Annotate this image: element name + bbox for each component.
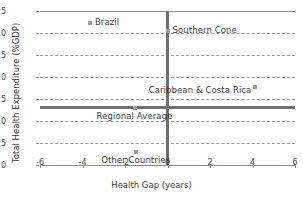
y-tick-label: 4.5 (0, 139, 6, 148)
y-tick-label: 7.5 (0, 7, 6, 16)
plot-area: BrazilSouthern ConeCaribbean & Costa Ric… (40, 11, 295, 165)
y-tick-label: 5.5 (0, 95, 6, 104)
x-axis-label: Health Gap (years) (0, 180, 303, 190)
data-point-marker[interactable] (134, 150, 138, 154)
y-tick-mark (36, 121, 39, 122)
y-tick-label: 6.0 (0, 73, 6, 82)
x-tick-label: -4 (79, 158, 87, 167)
y-tick-mark (36, 33, 39, 34)
x-tick-label: -2 (121, 158, 129, 167)
y-tick-mark (36, 11, 39, 12)
data-point-label: Other Countries (101, 155, 170, 165)
data-point-marker[interactable] (133, 106, 137, 110)
y-axis-label: Total Health Expenditure (%GDP) (11, 23, 21, 163)
data-point-label: Southern Cone (173, 25, 237, 35)
y-tick-mark (36, 143, 39, 144)
x-tick-label: 6 (292, 158, 297, 167)
x-tick-label: 0 (165, 158, 170, 167)
data-point-marker[interactable] (166, 29, 170, 33)
data-point-marker[interactable] (253, 85, 257, 89)
y-tick-label: 4.0 (0, 161, 6, 170)
x-tick-label: 4 (250, 158, 255, 167)
y-tick-label: 5.0 (0, 117, 6, 126)
data-point-marker[interactable] (88, 21, 92, 25)
reference-line-regional-average-expenditure (40, 106, 295, 109)
y-tick-label: 7.0 (0, 29, 6, 38)
x-tick-label: 2 (207, 158, 212, 167)
data-point-label: Regional Average (97, 111, 173, 121)
data-point-label: Brazil (95, 17, 119, 27)
data-point-label: Caribbean & Costa Rica (149, 85, 252, 95)
x-tick-label: -6 (36, 158, 44, 167)
y-tick-mark (36, 77, 39, 78)
y-tick-mark (36, 99, 39, 100)
scatter-chart: Total Health Expenditure (%GDP) Health G… (0, 0, 303, 200)
y-tick-mark (36, 55, 39, 56)
y-tick-label: 6.5 (0, 51, 6, 60)
